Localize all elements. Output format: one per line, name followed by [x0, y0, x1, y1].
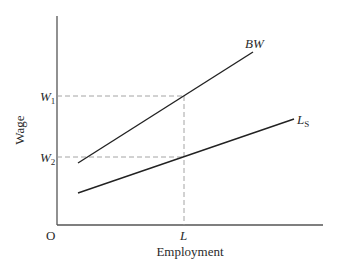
origin-label: O [46, 228, 55, 243]
bw-curve [78, 52, 253, 163]
ls-label: LS [296, 112, 309, 129]
x-axis-title: Employment [156, 244, 224, 259]
w2-label: W2 [40, 150, 55, 167]
w1-label: W1 [40, 89, 55, 106]
bw-label: BW [245, 36, 265, 51]
l-label: L [179, 228, 187, 243]
ls-curve [78, 119, 294, 193]
y-axis-title: Wage [12, 115, 27, 144]
wage-employment-diagram: BW LS W1 W2 O L Employment Wage [0, 0, 340, 272]
